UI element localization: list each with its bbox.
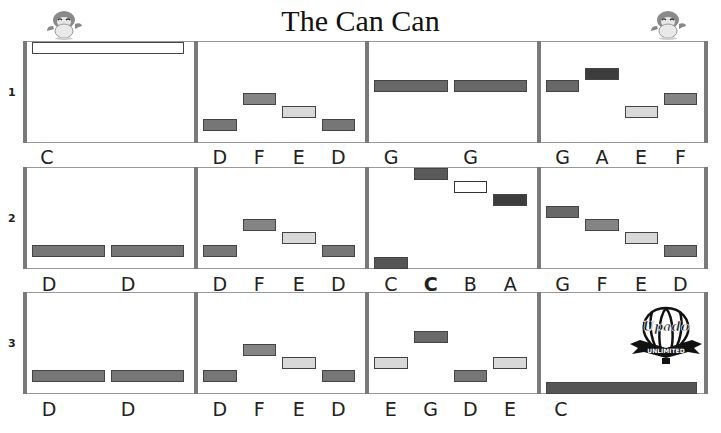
bar-line xyxy=(194,292,198,394)
note-block-a xyxy=(493,194,527,206)
note-label: D xyxy=(323,146,353,168)
note-label: F xyxy=(244,398,274,420)
note-block-f xyxy=(585,219,618,231)
note-label: A xyxy=(587,146,617,168)
note-block-f xyxy=(243,344,277,356)
svg-text:UNLIMITED: UNLIMITED xyxy=(647,347,684,354)
bar-line xyxy=(23,292,27,394)
bar-line xyxy=(365,292,369,394)
bar-line xyxy=(194,41,198,143)
note-block-d xyxy=(454,370,488,382)
bar-line xyxy=(704,292,708,394)
bar-line xyxy=(365,167,369,269)
note-block-e xyxy=(282,357,316,369)
note-label: D xyxy=(205,398,235,420)
note-block-d xyxy=(203,245,237,257)
note-label: D xyxy=(323,398,353,420)
note-block-g xyxy=(546,80,579,92)
note-label: D xyxy=(455,398,485,420)
note-block-d xyxy=(203,119,237,131)
bar-line xyxy=(537,292,541,394)
note-block-c_low xyxy=(546,382,697,394)
note-block-g xyxy=(374,80,448,92)
note-block-d xyxy=(203,370,237,382)
bar-line xyxy=(23,41,27,143)
note-label: F xyxy=(665,146,695,168)
bar-line xyxy=(23,167,27,269)
note-label: G xyxy=(376,146,406,168)
note-block-e xyxy=(282,106,316,118)
note-block-d xyxy=(322,370,356,382)
note-block-d xyxy=(111,245,184,257)
note-block-f xyxy=(664,93,697,105)
note-block-e xyxy=(625,106,658,118)
bar-line xyxy=(194,167,198,269)
note-block-g xyxy=(454,80,528,92)
note-block-e xyxy=(625,232,658,244)
staff-row xyxy=(23,292,708,394)
note-labels: DDDFEDEGDEC xyxy=(0,398,721,420)
note-block-d xyxy=(322,119,356,131)
bar-line xyxy=(704,41,708,143)
note-block-f xyxy=(243,93,277,105)
note-block-b xyxy=(454,181,488,193)
note-block-c xyxy=(32,42,184,54)
note-label: E xyxy=(376,398,406,420)
note-label: D xyxy=(34,398,64,420)
note-label: G xyxy=(548,146,578,168)
note-block-a xyxy=(585,68,618,80)
note-block-g xyxy=(414,331,448,343)
note-label: E xyxy=(284,398,314,420)
staff-row xyxy=(23,167,708,269)
bar-line xyxy=(537,167,541,269)
note-block-d xyxy=(322,245,356,257)
note-label: G xyxy=(416,398,446,420)
note-label: C xyxy=(546,398,576,420)
penguin-icon xyxy=(648,8,688,40)
note-block-d xyxy=(32,370,105,382)
page-title: The Can Can xyxy=(0,4,721,38)
row-number: 2 xyxy=(8,212,16,225)
note-label: E xyxy=(284,146,314,168)
bar-line xyxy=(537,41,541,143)
bar-line xyxy=(365,41,369,143)
note-label: C xyxy=(32,146,62,168)
note-label: F xyxy=(244,146,274,168)
bar-line xyxy=(704,167,708,269)
note-block-d xyxy=(32,245,105,257)
note-block-e xyxy=(374,357,408,369)
note-block-c_low xyxy=(374,257,408,269)
note-block-e xyxy=(493,357,527,369)
upado-unlimited-logo: UNLIMITED Upado xyxy=(628,304,704,372)
staff-row xyxy=(23,41,708,143)
svg-text:Upado: Upado xyxy=(643,319,690,334)
note-labels: CDFEDGGGAEF xyxy=(0,146,721,168)
note-label: G xyxy=(456,146,486,168)
note-label: E xyxy=(626,146,656,168)
row-number: 1 xyxy=(8,86,16,99)
note-block-g xyxy=(546,206,579,218)
note-label: D xyxy=(205,146,235,168)
note-block-e xyxy=(282,232,316,244)
note-label: D xyxy=(113,398,143,420)
penguin-icon xyxy=(44,8,84,40)
note-block-d xyxy=(111,370,184,382)
note-label: E xyxy=(495,398,525,420)
note-block-d xyxy=(664,245,697,257)
note-block-f xyxy=(243,219,277,231)
row-number: 3 xyxy=(8,337,16,350)
note-block-c_high xyxy=(414,168,448,180)
